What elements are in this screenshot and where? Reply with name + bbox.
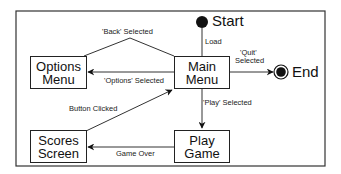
- start-node-icon: [196, 16, 208, 28]
- back-selected-label: 'Back' Selected: [102, 27, 153, 36]
- start-label: Start: [212, 12, 244, 29]
- button-clicked-label: Button Clicked: [69, 104, 117, 113]
- end-label: End: [292, 63, 319, 80]
- game-over-label: Game Over: [116, 149, 155, 158]
- back-transition: [84, 38, 174, 56]
- scores-screen-state: ScoresScreen: [30, 130, 87, 163]
- main-menu-state: MainMenu: [174, 56, 230, 89]
- quit-label-line2: Selected: [235, 56, 264, 65]
- options-selected-label: 'Options' Selected: [104, 76, 164, 85]
- load-label: Load: [205, 37, 222, 46]
- play-game-state: PlayGame: [174, 130, 230, 163]
- options-menu-state: OptionsMenu: [30, 56, 87, 89]
- play-selected-label: 'Play' Selected: [203, 98, 252, 107]
